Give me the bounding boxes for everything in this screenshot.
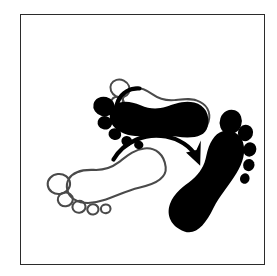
footprint-diagram-canvas bbox=[0, 0, 277, 276]
figure-root: Two pairs of footprints: an outlined sta… bbox=[0, 0, 277, 276]
outline-foot-lower bbox=[45, 146, 170, 218]
